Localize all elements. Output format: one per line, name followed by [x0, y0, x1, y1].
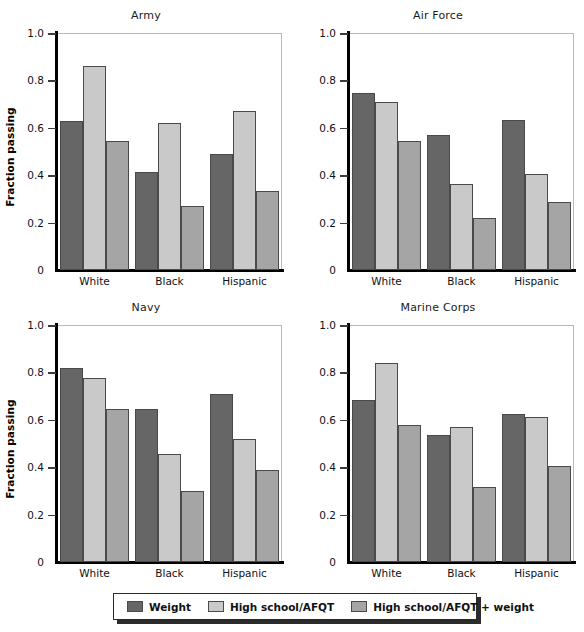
y-axis-label: Fraction passing — [4, 364, 16, 534]
bar-group — [352, 325, 421, 562]
x-axis-tick-label: Hispanic — [492, 275, 582, 287]
bar — [473, 487, 496, 562]
y-axis-tick-label: 1.0 — [0, 27, 44, 39]
bar — [450, 184, 473, 271]
y-axis-tick-label: 0.4 — [292, 169, 336, 181]
panel-title: Marine Corps — [292, 301, 584, 314]
bar — [398, 141, 421, 270]
y-axis-tick-label: 0.4 — [292, 461, 336, 473]
legend-label: High school/AFQT + weight — [373, 601, 534, 613]
bar — [158, 454, 181, 562]
y-axis-tick-label: 1.0 — [0, 319, 44, 331]
bar — [106, 141, 129, 270]
bar — [256, 191, 279, 270]
y-axis-tick — [340, 175, 348, 177]
bar — [256, 470, 279, 562]
y-axis-tick-label: 0 — [0, 264, 44, 276]
y-axis-tick-label: 0 — [292, 556, 336, 568]
bar — [60, 121, 83, 270]
bar — [135, 409, 158, 562]
bar-group — [210, 325, 279, 562]
bar-group — [427, 325, 496, 562]
y-axis-tick — [48, 80, 56, 82]
bar — [158, 123, 181, 270]
y-axis-tick — [48, 175, 56, 177]
y-axis-tick — [48, 128, 56, 130]
y-axis-label: Fraction passing — [4, 72, 16, 242]
y-axis-tick — [48, 372, 56, 374]
bar — [502, 414, 525, 562]
bar — [450, 427, 473, 562]
bars-layer — [57, 33, 282, 270]
y-axis-tick — [340, 33, 348, 35]
y-axis-tick-label: 0.2 — [292, 217, 336, 229]
legend-label: High school/AFQT — [230, 601, 334, 613]
x-axis-tick-label: Hispanic — [200, 567, 290, 579]
bar — [352, 93, 375, 270]
bars-layer — [57, 325, 282, 562]
y-axis-tick — [48, 420, 56, 422]
y-axis-tick — [340, 223, 348, 225]
bar — [210, 154, 233, 270]
bar — [135, 172, 158, 270]
bar — [83, 378, 106, 562]
y-axis-tick — [48, 515, 56, 517]
bar — [181, 206, 204, 270]
bar-group — [60, 33, 129, 270]
bar — [427, 135, 450, 270]
legend-item: High school/AFQT — [208, 601, 334, 613]
y-axis-tick — [340, 420, 348, 422]
y-axis-tick-label: 1.0 — [292, 27, 336, 39]
y-axis-tick-label: 0.8 — [292, 366, 336, 378]
y-axis-tick — [48, 223, 56, 225]
y-axis-tick-label: 0 — [292, 264, 336, 276]
bars-layer — [349, 325, 574, 562]
bar — [106, 409, 129, 562]
bar-group — [502, 33, 571, 270]
y-axis-tick-label: 0 — [0, 556, 44, 568]
y-axis-tick — [340, 80, 348, 82]
y-axis-tick-label: 0.2 — [292, 509, 336, 521]
y-axis-tick — [48, 467, 56, 469]
chart-panel: Air Force00.20.40.60.81.0WhiteBlackHispa… — [292, 0, 584, 292]
bar-group — [60, 325, 129, 562]
bar — [60, 368, 83, 562]
bar — [83, 66, 106, 270]
legend-label: Weight — [149, 601, 191, 613]
legend-item: High school/AFQT + weight — [351, 601, 534, 613]
bar — [525, 174, 548, 270]
y-axis-tick-label: 0.6 — [292, 122, 336, 134]
chart-panel: Army00.20.40.60.81.0Fraction passingWhit… — [0, 0, 292, 292]
y-axis-tick — [340, 325, 348, 327]
bar-group — [210, 33, 279, 270]
y-axis-tick-label: 1.0 — [292, 319, 336, 331]
chart-legend: WeightHigh school/AFQTHigh school/AFQT +… — [113, 593, 477, 620]
bar — [233, 111, 256, 270]
y-axis-tick — [48, 325, 56, 327]
bar — [548, 202, 571, 270]
figure: Army00.20.40.60.81.0Fraction passingWhit… — [0, 0, 584, 632]
y-axis-tick — [48, 33, 56, 35]
panel-title: Navy — [0, 301, 292, 314]
legend-item: Weight — [127, 601, 191, 613]
legend-swatch — [351, 601, 367, 612]
y-axis-tick — [340, 128, 348, 130]
y-axis-tick — [340, 515, 348, 517]
legend-swatch — [127, 601, 143, 612]
bar-group — [502, 325, 571, 562]
bar-group — [427, 33, 496, 270]
bar — [375, 363, 398, 562]
bar-group — [135, 33, 204, 270]
legend-swatch — [208, 601, 224, 612]
bar — [375, 102, 398, 270]
panel-grid: Army00.20.40.60.81.0Fraction passingWhit… — [0, 0, 584, 584]
panel-title: Air Force — [292, 9, 584, 22]
panel-title: Army — [0, 9, 292, 22]
bar — [181, 491, 204, 562]
bar — [548, 466, 571, 562]
bar — [233, 439, 256, 562]
bar — [398, 425, 421, 562]
chart-panel: Marine Corps00.20.40.60.81.0WhiteBlackHi… — [292, 292, 584, 584]
x-axis-tick-label: Hispanic — [492, 567, 582, 579]
bar — [352, 400, 375, 562]
